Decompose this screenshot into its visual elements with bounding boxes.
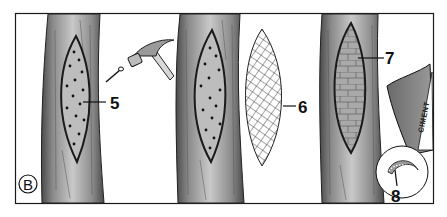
tree-repair-illustration: 5 B 6 7: [0, 0, 447, 217]
label-5: 5: [110, 94, 119, 113]
label-6: 6: [298, 98, 307, 117]
label-7: 7: [385, 49, 394, 68]
trunk-2: [176, 14, 244, 203]
panel-letter: B: [23, 176, 33, 193]
label-8: 8: [391, 187, 400, 206]
